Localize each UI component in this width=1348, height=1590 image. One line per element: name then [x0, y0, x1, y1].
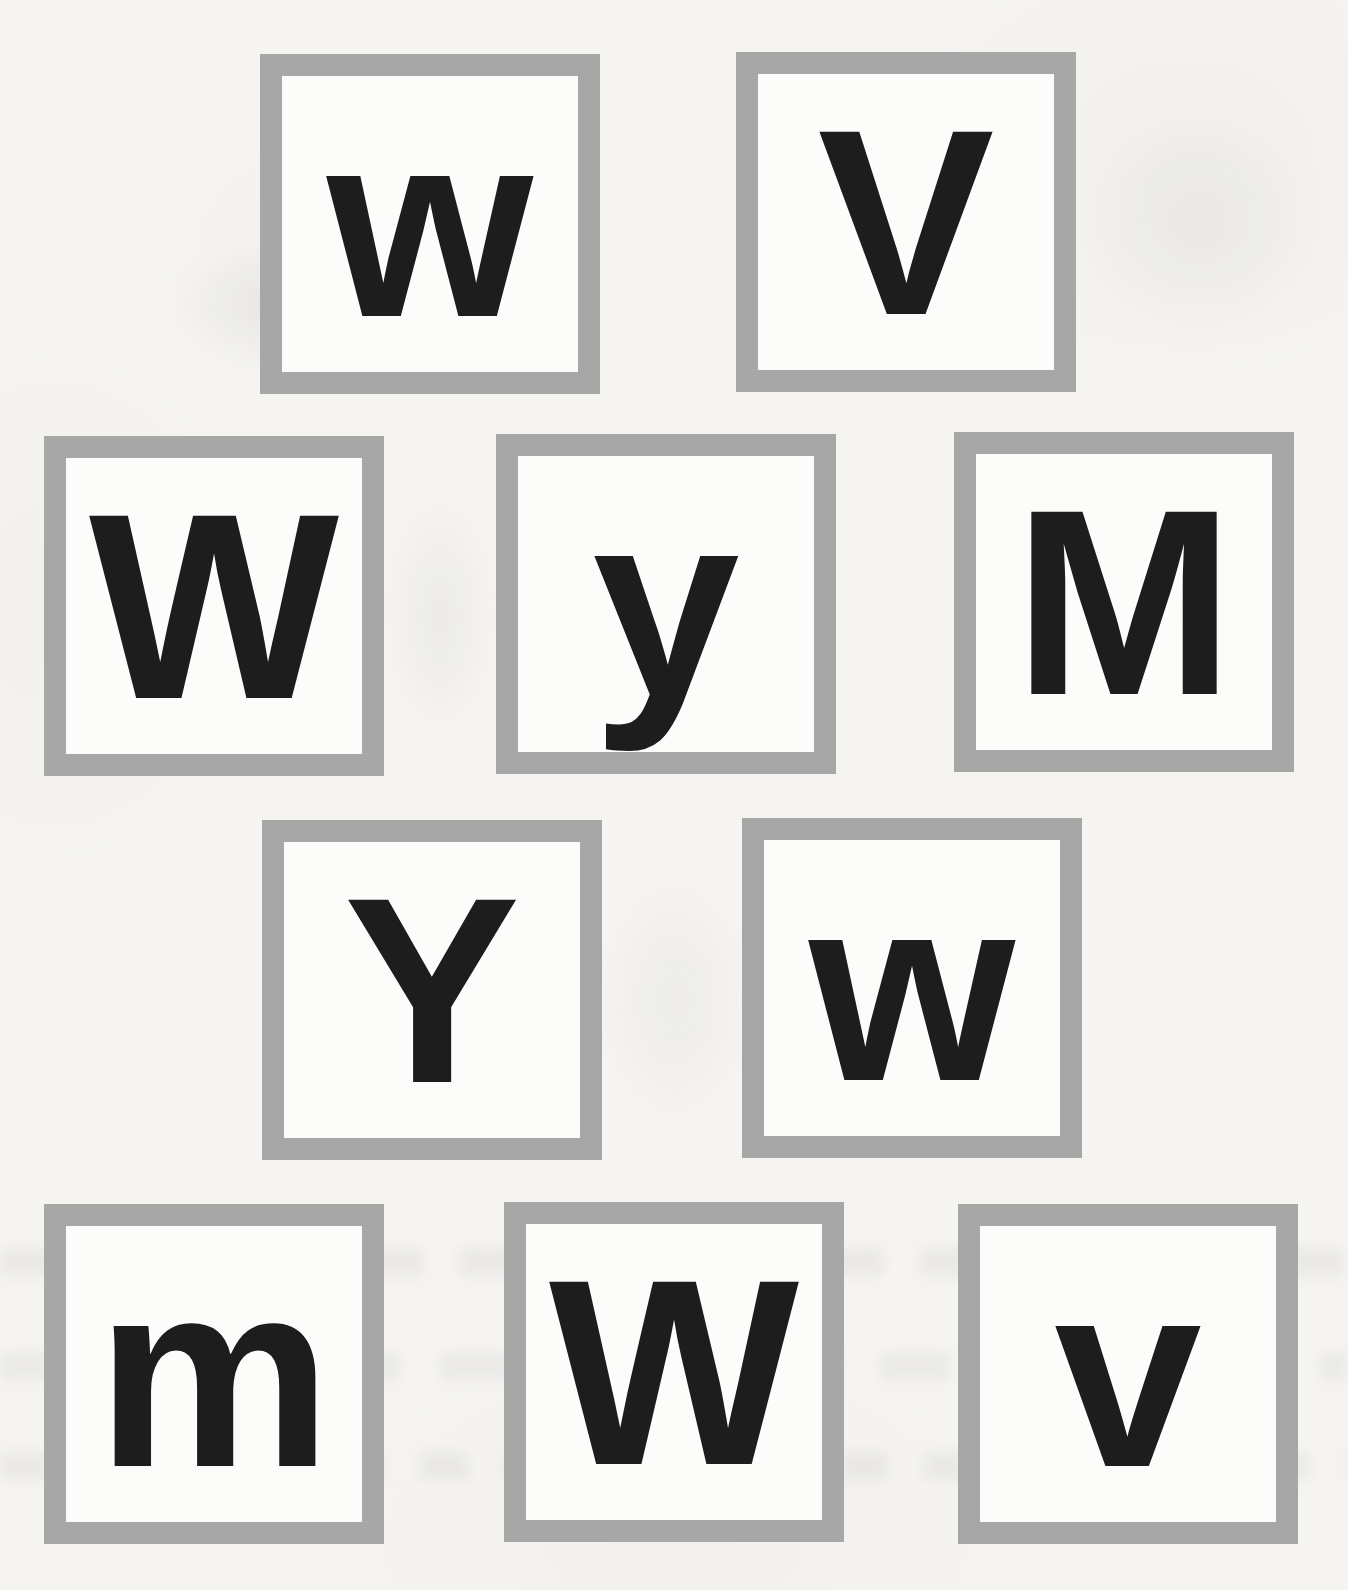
tile-letter: w [327, 92, 533, 357]
letter-tile-v-lowercase[interactable]: v [958, 1204, 1298, 1544]
tile-letter: w [809, 856, 1015, 1121]
letter-tile-w-lowercase-2[interactable]: w [742, 818, 1082, 1158]
tile-letter: V [818, 90, 995, 355]
bleed-through-artifact [385, 500, 495, 730]
tile-letter: m [96, 1242, 332, 1507]
tile-letter: y [592, 472, 739, 737]
letter-tile-y-lowercase[interactable]: y [496, 434, 836, 774]
bleed-through-artifact [1075, 110, 1325, 340]
bleed-through-artifact [600, 880, 750, 1120]
tile-letter: W [549, 1240, 799, 1505]
tile-letter: Y [344, 858, 521, 1123]
letter-tile-y-uppercase[interactable]: Y [262, 820, 602, 1160]
letter-tile-m-lowercase[interactable]: m [44, 1204, 384, 1544]
tile-letter: W [89, 474, 339, 739]
letter-tile-m-uppercase[interactable]: M [954, 432, 1294, 772]
worksheet-page: w V W y M Y w m W v [0, 0, 1348, 1590]
tile-letter: M [1014, 470, 1235, 735]
letter-tile-w-lowercase-1[interactable]: w [260, 54, 600, 394]
letter-tile-w-uppercase-1[interactable]: W [44, 436, 384, 776]
letter-tile-w-uppercase-2[interactable]: W [504, 1202, 844, 1542]
tile-letter: v [1054, 1242, 1201, 1507]
letter-tile-v-uppercase[interactable]: V [736, 52, 1076, 392]
